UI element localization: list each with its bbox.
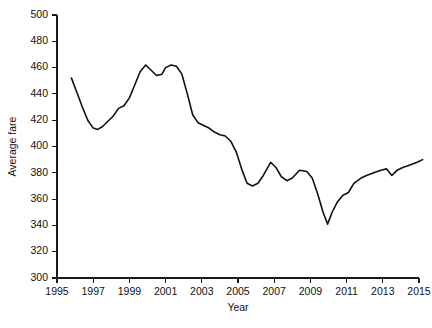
x-tick-label: 2007: [263, 285, 287, 297]
x-tick-label: 2003: [190, 285, 214, 297]
y-tick-label: 500: [30, 8, 48, 20]
x-tick-marks: [57, 278, 419, 283]
y-tick-label: 440: [30, 87, 48, 99]
x-tick-labels: 1995 1997 1999 2001 2003 2005 2007 2009 …: [45, 285, 431, 297]
x-tick-label: 1999: [118, 285, 142, 297]
y-tick-labels: 300 320 340 360 380 400 420 440 460 480 …: [30, 8, 48, 283]
y-tick-label: 300: [30, 271, 48, 283]
series-line-average-fare: [71, 65, 422, 224]
x-tick-label: 2001: [154, 285, 178, 297]
y-tick-label: 340: [30, 218, 48, 230]
chart-container: 300 320 340 360 380 400 420 440 460 480 …: [0, 0, 432, 328]
y-tick-label: 460: [30, 60, 48, 72]
x-tick-label: 2009: [299, 285, 323, 297]
series-group: [71, 65, 422, 224]
y-tick-label: 380: [30, 166, 48, 178]
y-tick-label: 420: [30, 113, 48, 125]
y-axis-group: 300 320 340 360 380 400 420 440 460 480 …: [6, 8, 57, 283]
x-tick-label: 1997: [82, 285, 106, 297]
y-tick-label: 400: [30, 139, 48, 151]
x-tick-label: 2011: [335, 285, 358, 297]
x-tick-label: 2015: [407, 285, 431, 297]
x-tick-label: 2005: [226, 285, 250, 297]
y-tick-label: 360: [30, 192, 48, 204]
y-tick-label: 480: [30, 34, 48, 46]
x-tick-label: 2013: [371, 285, 395, 297]
y-tick-marks: [52, 15, 57, 278]
x-axis-group: 1995 1997 1999 2001 2003 2005 2007 2009 …: [45, 278, 431, 313]
line-chart-svg: 300 320 340 360 380 400 420 440 460 480 …: [0, 0, 432, 328]
x-axis-title: Year: [227, 301, 249, 313]
x-tick-label: 1995: [45, 285, 69, 297]
y-tick-label: 320: [30, 244, 48, 256]
y-axis-title: Average fare: [6, 116, 18, 176]
